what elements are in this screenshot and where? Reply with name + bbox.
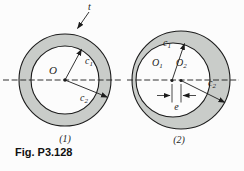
thickness-label: t [88, 1, 91, 12]
right-center2-label: O2 [176, 57, 187, 70]
left-center-dot [63, 78, 66, 81]
right-c1-label: c1 [163, 37, 171, 50]
thickness-pointer-line [78, 12, 90, 29]
eccentricity-label: e [172, 101, 181, 112]
left-c2-label: c2 [80, 92, 88, 105]
left-center-label: O [49, 65, 57, 76]
figure-caption: Fig. P3.128 [15, 146, 72, 158]
right-c2-label: c2 [208, 77, 216, 90]
right-center2-dot [180, 79, 183, 82]
right-center1-dot [171, 79, 174, 82]
right-figure-number: (2) [170, 134, 188, 145]
right-center1-label: O1 [152, 57, 163, 70]
figure-p3128: t O c1 c2 (1) O1 O2 c1 c2 e (2) Fig. P3.… [0, 0, 244, 171]
left-figure-number: (1) [56, 133, 74, 144]
left-c1-label: c1 [85, 55, 93, 68]
